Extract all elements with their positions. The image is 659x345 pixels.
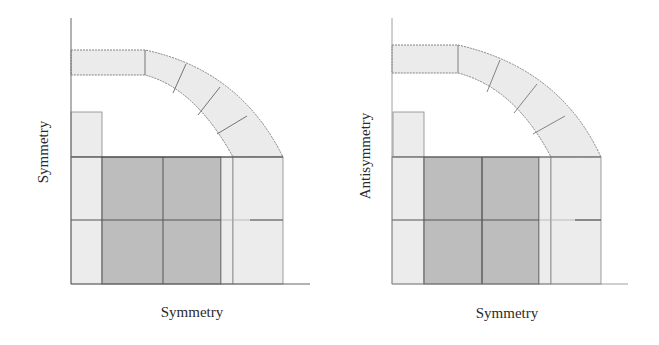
small-block xyxy=(71,112,102,157)
left-x-axis-label: Symmetry xyxy=(161,304,224,321)
symmetry-diagrams xyxy=(0,0,659,345)
small-block xyxy=(393,112,424,157)
arc-band xyxy=(71,50,283,157)
right-panel xyxy=(392,18,628,284)
left-y-axis-label: Symmetry xyxy=(35,121,52,184)
thin-strip xyxy=(539,157,551,284)
left-panel xyxy=(71,18,310,284)
right-y-axis-label: Antisymmetry xyxy=(357,113,374,200)
right-x-axis-label: Symmetry xyxy=(476,305,539,322)
thin-strip xyxy=(221,157,233,284)
